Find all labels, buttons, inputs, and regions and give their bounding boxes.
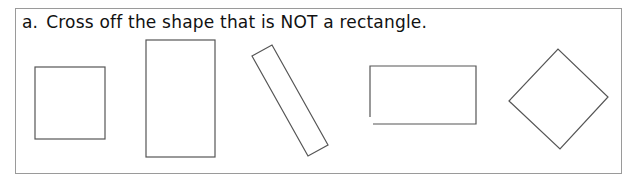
shape-diamond[interactable] (509, 49, 608, 149)
shape-square[interactable] (35, 67, 105, 139)
shape-open-rectangle[interactable] (370, 66, 476, 124)
shapes-area (0, 0, 639, 184)
shape-tilted-rectangle[interactable] (252, 45, 328, 156)
shape-tall-rectangle[interactable] (146, 40, 215, 157)
